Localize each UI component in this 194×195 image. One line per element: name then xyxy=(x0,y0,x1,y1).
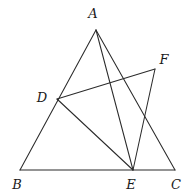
figure-canvas xyxy=(0,0,194,195)
vertex-label-b: B xyxy=(12,178,22,191)
vertex-label-d: D xyxy=(37,91,47,104)
vertex-label-c: C xyxy=(171,178,181,191)
segment-df xyxy=(57,69,155,99)
geometry-figure: ABCDEF xyxy=(0,0,194,195)
segment-ae xyxy=(96,30,133,170)
vertex-label-f: F xyxy=(159,53,168,66)
vertex-label-e: E xyxy=(126,178,136,191)
segment-de xyxy=(57,99,133,170)
vertex-label-a: A xyxy=(88,7,97,20)
segment-fe xyxy=(133,69,155,170)
